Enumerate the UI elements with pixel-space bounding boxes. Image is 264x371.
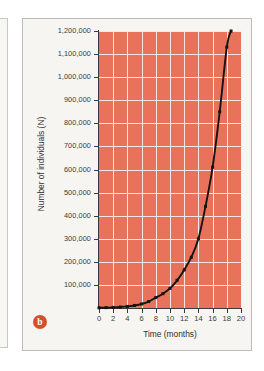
y-tick-label: 300,000: [64, 235, 91, 243]
adjacent-panel-edge: [0, 18, 8, 348]
y-tick-label-holder: 1,200,000: [23, 27, 91, 35]
y-tick-mark: [94, 285, 98, 286]
y-tick-mark: [94, 216, 98, 217]
y-tick-mark: [94, 170, 98, 171]
x-tick-mark: [99, 309, 100, 313]
gridlines: [99, 31, 241, 308]
y-tick-label: 800,000: [64, 119, 91, 127]
y-tick-label: 900,000: [64, 96, 91, 104]
x-tick-mark: [241, 309, 242, 313]
y-tick-label: 600,000: [64, 166, 91, 174]
gridline-vertical: [198, 31, 199, 308]
x-tick-mark: [113, 309, 114, 313]
y-tick-mark: [94, 262, 98, 263]
gridline-vertical: [184, 31, 185, 308]
y-tick-label-holder: 400,000: [23, 212, 91, 220]
x-tick-mark: [198, 309, 199, 313]
y-tick-mark: [94, 100, 98, 101]
y-tick-mark: [94, 54, 98, 55]
y-tick-label-holder: 1,000,000: [23, 73, 91, 81]
figure-root: 100,000200,000300,000400,000500,000600,0…: [0, 0, 264, 371]
x-tick-label: 20: [233, 314, 249, 323]
y-tick-mark: [94, 31, 98, 32]
y-tick-label: 100,000: [64, 281, 91, 289]
y-tick-label-holder: 600,000: [23, 166, 91, 174]
y-tick-label: 1,200,000: [58, 27, 91, 35]
gridline-vertical: [156, 31, 157, 308]
plot-wrapper: 100,000200,000300,000400,000500,000600,0…: [23, 19, 251, 350]
y-tick-label-holder: 1,100,000: [23, 50, 91, 58]
gridline-vertical: [113, 31, 114, 308]
plot-area: [99, 31, 241, 308]
y-tick-mark: [94, 77, 98, 78]
y-tick-label-holder: 200,000: [23, 258, 91, 266]
x-tick-mark: [127, 309, 128, 313]
figure-panel-b: 100,000200,000300,000400,000500,000600,0…: [22, 18, 252, 351]
y-tick-mark: [94, 123, 98, 124]
gridline-vertical: [127, 31, 128, 308]
y-tick-mark: [94, 146, 98, 147]
gridline-vertical: [170, 31, 171, 308]
y-tick-label-holder: 300,000: [23, 235, 91, 243]
y-tick-label: 1,100,000: [58, 50, 91, 58]
y-tick-label-holder: 500,000: [23, 189, 91, 197]
y-tick-mark: [94, 193, 98, 194]
gridline-vertical: [227, 31, 228, 308]
y-tick-mark: [94, 239, 98, 240]
y-tick-label: 500,000: [64, 189, 91, 197]
y-tick-label-holder: 100,000: [23, 281, 91, 289]
x-tick-mark: [170, 309, 171, 313]
x-tick-mark: [184, 309, 185, 313]
y-tick-label: 200,000: [64, 258, 91, 266]
panel-label-badge: b: [33, 315, 47, 329]
y-axis-line: [98, 30, 99, 309]
y-tick-label: 1,000,000: [58, 73, 91, 81]
y-tick-label-holder: 700,000: [23, 142, 91, 150]
y-tick-label-holder: 800,000: [23, 119, 91, 127]
x-tick-mark: [213, 309, 214, 313]
y-tick-label: 400,000: [64, 212, 91, 220]
y-tick-label-holder: 900,000: [23, 96, 91, 104]
x-axis-title: Time (months): [99, 329, 241, 339]
y-tick-label: 700,000: [64, 142, 91, 150]
gridline-vertical: [213, 31, 214, 308]
gridline-vertical: [142, 31, 143, 308]
x-tick-mark: [156, 309, 157, 313]
y-axis-title: Number of individuals (N): [36, 84, 46, 244]
x-tick-mark: [227, 309, 228, 313]
x-tick-mark: [142, 309, 143, 313]
